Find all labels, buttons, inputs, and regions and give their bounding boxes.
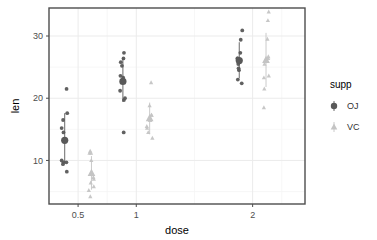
chart-container: 102030 0.512 dose len supp OJVC xyxy=(0,0,377,240)
legend-item-label: VC xyxy=(347,122,360,132)
y-axis-title: len xyxy=(9,99,21,114)
y-tick-label: 10 xyxy=(33,156,43,166)
x-tick-label: 2 xyxy=(250,210,255,220)
legend-title: supp xyxy=(330,79,352,90)
y-tick-label: 30 xyxy=(33,31,43,41)
x-tick-label: 0.5 xyxy=(72,210,85,220)
x-tick-label: 1 xyxy=(134,210,139,220)
panel-background xyxy=(49,8,305,204)
x-axis-title: dose xyxy=(165,224,189,236)
y-tick-label: 20 xyxy=(33,93,43,103)
scatter-plot-svg: 102030 0.512 dose len supp OJVC xyxy=(0,0,377,240)
legend-item-label: OJ xyxy=(347,101,359,111)
